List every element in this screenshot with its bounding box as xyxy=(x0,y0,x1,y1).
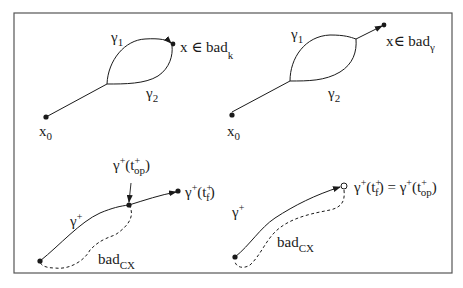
start-label: x0 xyxy=(39,123,53,142)
gamma2-curve xyxy=(107,46,172,84)
start-point xyxy=(37,258,42,263)
start-point xyxy=(43,114,48,119)
gamma-plus-extension xyxy=(129,192,176,205)
gamma1-curve xyxy=(107,39,171,84)
end-label: γ+(t+f) = γ+(t+op) xyxy=(353,177,437,198)
gamma1-label: γ1 xyxy=(290,26,303,45)
gamma2-curve xyxy=(290,39,356,81)
panel-bottom-left: γ+ γ+(t+op) γ+(t+f) badCX xyxy=(37,155,214,271)
panel-bottom-right: γ+ γ+(t+f) = γ+(t+op) badCX xyxy=(231,177,437,267)
panel-top-left: x0 γ1 γ2 x ∈ badk xyxy=(39,29,234,142)
bad-cx-boundary xyxy=(235,190,344,267)
end-point xyxy=(175,188,180,193)
start-label: x0 xyxy=(227,123,241,142)
pointer-arrow xyxy=(129,183,131,202)
start-point xyxy=(232,254,237,259)
bad-cx-label: badCX xyxy=(277,234,314,254)
mid-label: γ+(t+op) xyxy=(112,155,150,176)
diagram-figure: x0 γ1 γ2 x ∈ badk x0 γ1 γ2 x∈ badγ γ+ γ+… xyxy=(0,0,463,288)
path-segment xyxy=(46,84,107,117)
path-segment xyxy=(232,81,290,112)
panel-top-right: x0 γ1 γ2 x∈ badγ xyxy=(227,23,435,142)
gamma-plus-label: γ+ xyxy=(69,211,83,229)
gamma1-label: γ1 xyxy=(110,29,123,48)
end-label: γ+(t+f) xyxy=(184,182,215,203)
end-label: x ∈ badk xyxy=(180,39,234,61)
end-open-point xyxy=(341,183,347,189)
gamma2-label: γ2 xyxy=(327,85,340,104)
exit-arrow xyxy=(356,26,382,39)
gamma-plus-label: γ+ xyxy=(231,202,245,220)
gamma2-label: γ2 xyxy=(145,85,158,104)
mid-point xyxy=(126,202,131,207)
end-point xyxy=(382,23,387,28)
start-point xyxy=(229,112,234,117)
end-label: x∈ badγ xyxy=(386,33,435,53)
bad-cx-label: badCX xyxy=(98,251,135,271)
end-point xyxy=(171,42,176,47)
